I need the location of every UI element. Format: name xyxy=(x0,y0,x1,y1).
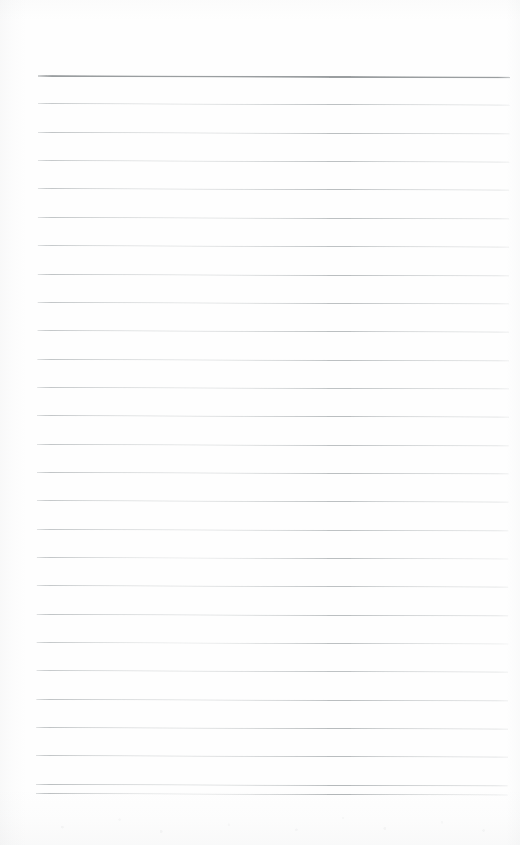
writing-area[interactable] xyxy=(38,75,510,795)
notepad-page xyxy=(0,0,520,845)
